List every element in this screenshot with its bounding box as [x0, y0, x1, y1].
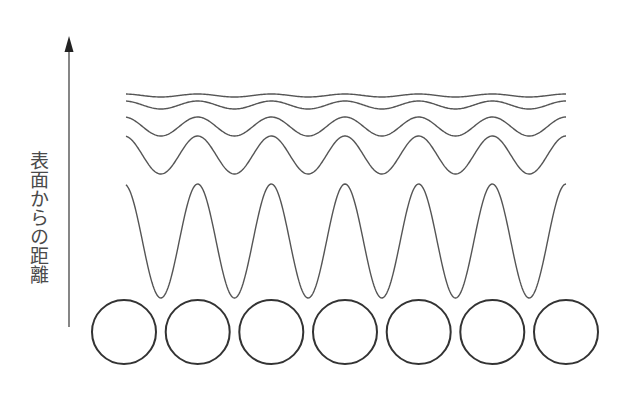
arrow-up-icon	[65, 36, 74, 52]
surface-atom-circle	[460, 300, 524, 364]
surface-atoms	[92, 300, 598, 364]
wave-1	[126, 94, 566, 97]
surface-atom-circle	[534, 300, 598, 364]
potential-waves	[126, 94, 566, 298]
surface-potential-diagram	[0, 0, 632, 402]
surface-atom-circle	[313, 300, 377, 364]
surface-atom-circle	[92, 300, 156, 364]
surface-atom-circle	[387, 300, 451, 364]
wave-4	[126, 136, 566, 174]
wave-3	[126, 117, 566, 136]
wave-2	[126, 101, 566, 109]
surface-atom-circle	[166, 300, 230, 364]
distance-axis-arrow	[65, 36, 74, 327]
wave-5	[126, 184, 566, 298]
surface-atom-circle	[239, 300, 303, 364]
axis-label: 表面からの距離	[29, 151, 49, 284]
